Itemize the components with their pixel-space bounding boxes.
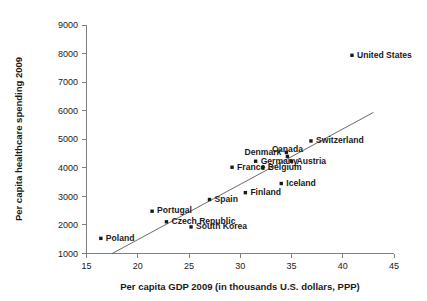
data-point-marker (99, 237, 102, 240)
data-point-marker (150, 210, 153, 213)
data-point-label: Finland (250, 187, 281, 197)
y-tick-label: 3000 (58, 192, 78, 202)
y-tick-label: 6000 (58, 106, 78, 116)
data-point-marker (165, 220, 168, 223)
y-axis-title: Per capita healthcare spending 2009 (13, 57, 24, 221)
y-tick-label: 8000 (58, 49, 78, 59)
data-point-label: Poland (106, 233, 135, 243)
data-point-label: Iceland (286, 178, 316, 188)
data-point-label: Austria (297, 156, 327, 166)
x-tick-label: 35 (286, 261, 296, 271)
data-point-marker (290, 160, 293, 163)
data-point-label: United States (357, 50, 412, 60)
data-point-marker (208, 198, 211, 201)
y-tick-label: 1000 (58, 249, 78, 259)
data-point-marker (261, 166, 264, 169)
data-point-marker (350, 54, 353, 57)
data-points: PolandPortugalCzech RepublicSouth KoreaS… (99, 50, 412, 243)
data-point-label: Portugal (157, 205, 192, 215)
x-tick-label: 20 (133, 261, 143, 271)
data-point-marker (286, 155, 289, 158)
data-point-marker (189, 225, 192, 228)
data-point-marker (230, 166, 233, 169)
data-point-label: South Korea (196, 221, 247, 231)
x-axis-title: Per capita GDP 2009 (in thousands U.S. d… (120, 281, 360, 292)
data-point-label: Denmark (245, 147, 282, 157)
y-axis-ticks: 100020003000400050006000700080009000 (58, 20, 87, 259)
data-point-marker (280, 182, 283, 185)
x-axis-ticks: 15202530354045 (81, 254, 399, 272)
x-tick-label: 25 (184, 261, 194, 271)
data-point-label: Spain (215, 194, 238, 204)
trend-line (112, 112, 373, 253)
data-point-marker (254, 160, 257, 163)
trend-line-group (112, 112, 373, 253)
data-point-label: Switzerland (316, 135, 364, 145)
x-tick-label: 40 (338, 261, 348, 271)
data-point-marker (244, 191, 247, 194)
x-tick-label: 30 (235, 261, 245, 271)
y-tick-label: 2000 (58, 220, 78, 230)
plot-area: 100020003000400050006000700080009000 152… (0, 0, 427, 301)
y-tick-label: 5000 (58, 134, 78, 144)
data-point-marker (309, 139, 312, 142)
y-tick-label: 4000 (58, 163, 78, 173)
scatter-chart: 100020003000400050006000700080009000 152… (0, 0, 427, 301)
x-tick-label: 15 (81, 261, 91, 271)
data-point-marker (285, 151, 288, 154)
y-tick-label: 7000 (58, 77, 78, 87)
y-tick-label: 9000 (58, 20, 78, 30)
x-tick-label: 45 (389, 261, 399, 271)
